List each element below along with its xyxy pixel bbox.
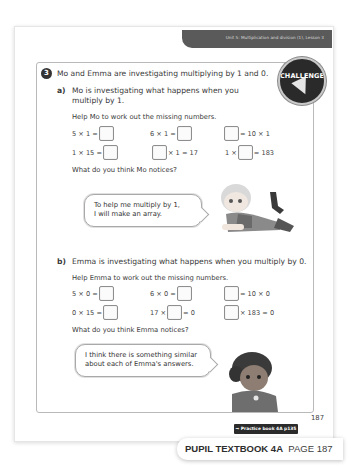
equation-a6: 1 × = 183 <box>225 145 274 160</box>
answer-box[interactable] <box>167 305 182 320</box>
tab-title: PUPIL TEXTBOOK 4A <box>185 443 283 454</box>
equation-a1: 5 × 1 = <box>72 126 114 141</box>
mo-character-illustration <box>218 182 304 238</box>
challenge-badge: CHALLENGE <box>278 57 326 105</box>
equation-b5: 17 × = 0 <box>150 305 195 320</box>
part-b-line1: Emma is investigating what happens when … <box>72 257 306 266</box>
answer-box[interactable] <box>224 305 239 320</box>
part-a-prompt: What do you think Mo notices? <box>72 166 177 174</box>
answer-box[interactable] <box>103 305 118 320</box>
answer-box[interactable] <box>99 286 114 301</box>
part-a-instruction: Help Mo to work out the missing numbers. <box>72 113 217 121</box>
question-intro: Mo and Emma are investigating multiplyin… <box>57 69 268 78</box>
part-b-instruction: Help Emma to work out the missing number… <box>72 274 228 282</box>
equation-b4: 0 × 15 = <box>72 305 118 320</box>
equation-a5: × 1 = 17 <box>152 145 198 160</box>
equation-a4: 1 × 15 = <box>72 145 118 160</box>
part-a-line1: Mo is investigating what happens when yo… <box>72 86 239 95</box>
mo-speech-bubble: To help me multiply by 1, I will make an… <box>84 194 202 227</box>
equation-b3: = 10 × 0 <box>224 286 270 301</box>
answer-box[interactable] <box>224 286 239 301</box>
equation-b6: × 183 = 0 <box>224 305 274 320</box>
answer-box[interactable] <box>177 286 192 301</box>
question-number: 3 <box>41 68 52 79</box>
answer-box[interactable] <box>103 145 118 160</box>
part-b-prompt: What do you think Emma notices? <box>72 326 189 334</box>
unit-label: Unit 5: Multiplication and division (1),… <box>226 35 324 40</box>
unit-header-bar: Unit 5: Multiplication and division (1),… <box>182 30 332 48</box>
page-number: 187 <box>311 414 324 422</box>
part-a-line2: multiply by 1. <box>72 96 124 105</box>
emma-speech-bubble: I think there is something similar about… <box>75 344 211 377</box>
equation-b1: 5 × 0 = <box>72 286 114 301</box>
equation-b2: 6 × 0 = <box>150 286 192 301</box>
tab-page: PAGE 187 <box>288 443 332 454</box>
answer-box[interactable] <box>238 145 253 160</box>
pupil-textbook-tab: PUPIL TEXTBOOK 4A PAGE 187 <box>177 438 343 460</box>
badge-label: CHALLENGE <box>280 72 324 80</box>
answer-box[interactable] <box>152 145 167 160</box>
equation-a3: = 10 × 1 <box>224 126 270 141</box>
equation-a2: 6 × 1 = <box>150 126 192 141</box>
answer-box[interactable] <box>224 126 239 141</box>
part-b-letter: b) <box>57 257 66 266</box>
emma-character-illustration <box>226 350 284 412</box>
answer-box[interactable] <box>177 126 192 141</box>
practice-book-reference[interactable]: → Practice book 4A p135 <box>234 424 298 434</box>
part-a-letter: a) <box>57 86 66 95</box>
answer-box[interactable] <box>99 126 114 141</box>
